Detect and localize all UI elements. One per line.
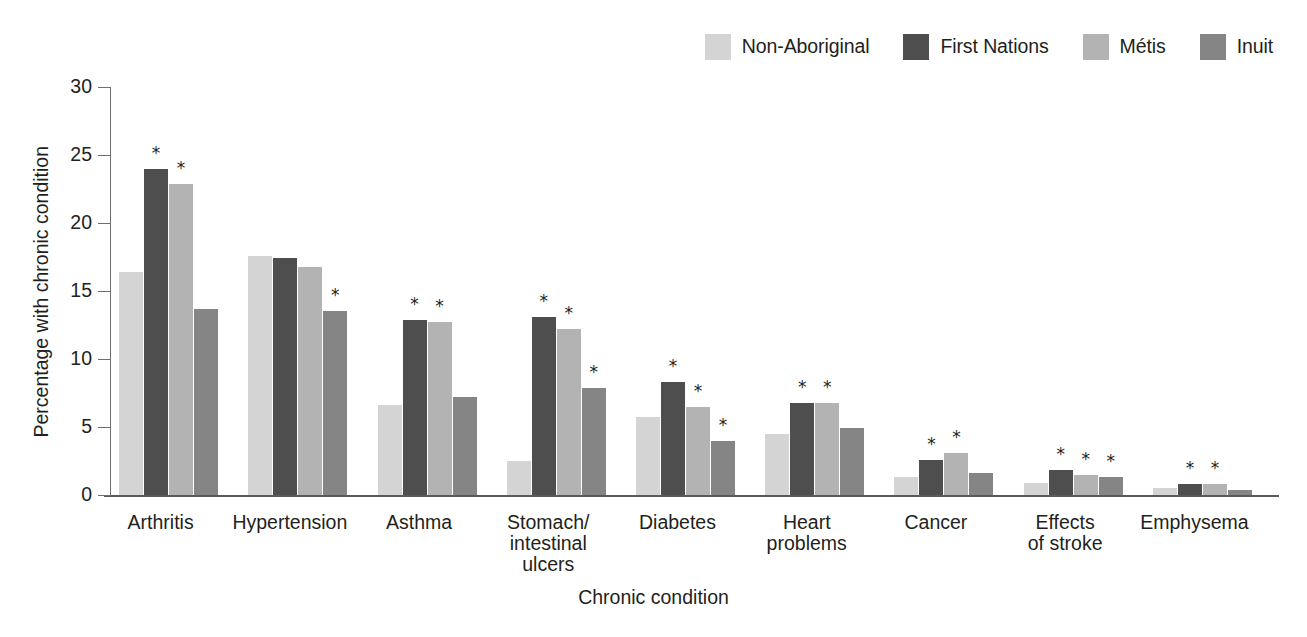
significance-asterisk: * (811, 379, 843, 396)
y-axis-tick-label: 5 (48, 417, 92, 437)
bar-group: ** (894, 87, 993, 495)
bar[interactable] (378, 405, 402, 495)
x-axis-category-label: Emphysema (1130, 512, 1259, 533)
significance-asterisk: * (1095, 453, 1127, 470)
bar[interactable] (403, 320, 427, 495)
y-axis-tick-label: 30 (48, 77, 92, 97)
bar[interactable] (1203, 484, 1227, 495)
bar[interactable] (944, 453, 968, 495)
x-axis-category-label: Cancer (871, 512, 1000, 533)
bar[interactable] (119, 272, 143, 495)
bar[interactable] (840, 428, 864, 495)
significance-asterisk: * (553, 305, 585, 322)
x-axis-category-label: Asthma (354, 512, 483, 533)
x-axis-line (104, 495, 1279, 497)
bar[interactable] (636, 417, 660, 495)
bar-group: ** (119, 87, 218, 495)
x-axis-category-label: Arthritis (96, 512, 225, 533)
bar[interactable] (582, 388, 606, 495)
bar[interactable] (557, 329, 581, 495)
y-axis-tick-label: 20 (48, 213, 92, 233)
legend-item-non-aboriginal[interactable]: Non-Aboriginal (705, 34, 870, 60)
legend-swatch-icon (705, 34, 731, 60)
x-axis-category-label: Hypertension (225, 512, 354, 533)
chart-legend: Non-AboriginalFirst NationsMétisInuit (0, 32, 1307, 62)
bar[interactable] (969, 473, 993, 495)
legend-item-first-nations[interactable]: First Nations (903, 34, 1048, 60)
significance-asterisk: * (940, 429, 972, 446)
bar[interactable] (1099, 477, 1123, 495)
bar[interactable] (1228, 490, 1252, 495)
significance-asterisk: * (657, 358, 689, 375)
x-axis-category-label: Effects of stroke (1001, 512, 1130, 554)
legend-item-m-tis[interactable]: Métis (1083, 34, 1166, 60)
y-axis-tick-label: 0 (48, 485, 92, 505)
bar-group: ** (378, 87, 477, 495)
x-axis-title: Chronic condition (0, 588, 1307, 608)
bar[interactable] (507, 461, 531, 495)
significance-asterisk: * (165, 160, 197, 177)
legend-label: Inuit (1237, 37, 1273, 57)
y-axis-tick (98, 495, 111, 496)
significance-asterisk: * (1199, 460, 1231, 477)
y-axis-tick-label: 25 (48, 145, 92, 165)
y-axis-title: Percentage with chronic condition (32, 82, 52, 502)
bar[interactable] (1153, 488, 1177, 495)
significance-asterisk: * (682, 383, 714, 400)
legend-item-inuit[interactable]: Inuit (1200, 34, 1273, 60)
bar[interactable] (273, 258, 297, 495)
x-axis-category-label: Stomach/ intestinal ulcers (484, 512, 613, 575)
bar-group: ** (1153, 87, 1252, 495)
bar[interactable] (323, 311, 347, 495)
bar[interactable] (248, 256, 272, 495)
y-axis-tick-label: 10 (48, 349, 92, 369)
bar-group: ** (765, 87, 864, 495)
bar[interactable] (711, 441, 735, 495)
bar-group: *** (507, 87, 606, 495)
bar[interactable] (790, 403, 814, 495)
bar[interactable] (1024, 483, 1048, 495)
bar[interactable] (894, 477, 918, 495)
bar[interactable] (194, 309, 218, 495)
bar[interactable] (1178, 484, 1202, 495)
significance-asterisk: * (707, 417, 739, 434)
y-axis-tick-label: 15 (48, 281, 92, 301)
plot-area: ******************** (110, 87, 1273, 495)
bar-group: * (248, 87, 347, 495)
significance-asterisk: * (424, 298, 456, 315)
significance-asterisk: * (319, 287, 351, 304)
legend-label: Métis (1120, 37, 1166, 57)
bar[interactable] (144, 169, 168, 495)
legend-swatch-icon (1200, 34, 1226, 60)
bar[interactable] (1074, 475, 1098, 495)
bar[interactable] (815, 403, 839, 495)
legend-label: First Nations (940, 37, 1048, 57)
bar[interactable] (428, 322, 452, 495)
legend-swatch-icon (1083, 34, 1109, 60)
bar[interactable] (453, 397, 477, 495)
legend-swatch-icon (903, 34, 929, 60)
significance-asterisk: * (578, 364, 610, 381)
bar[interactable] (919, 460, 943, 495)
x-axis-category-label: Heart problems (742, 512, 871, 554)
x-axis-category-label: Diabetes (613, 512, 742, 533)
bar[interactable] (765, 434, 789, 495)
bar-group: *** (1024, 87, 1123, 495)
bar-group: *** (636, 87, 735, 495)
bar[interactable] (532, 317, 556, 495)
bar[interactable] (169, 184, 193, 495)
legend-label: Non-Aboriginal (742, 37, 870, 57)
bar[interactable] (1049, 470, 1073, 495)
